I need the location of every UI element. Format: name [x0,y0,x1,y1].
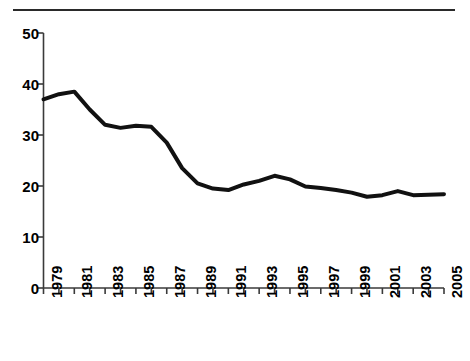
x-tick-label-1983: 1983 [111,266,126,298]
x-tick-label-1987: 1987 [173,266,188,298]
x-tick-label-2001: 2001 [388,266,403,298]
x-tick-label-1997: 1997 [327,266,342,298]
x-tick-label-1999: 1999 [358,266,373,298]
x-tick-label-2003: 2003 [419,266,434,298]
figure-root: 01020304050 1979198119831985198719891991… [0,0,470,361]
x-tick-label-1993: 1993 [265,266,280,298]
x-tick-label-1991: 1991 [234,266,249,298]
x-tick-label-2005: 2005 [450,266,465,298]
x-axis-tick-labels: 1979198119831985198719891991199319951997… [0,0,470,361]
x-tick-label-1995: 1995 [296,266,311,298]
x-tick-label-1979: 1979 [50,266,65,298]
x-tick-label-1989: 1989 [204,266,219,298]
x-tick-label-1985: 1985 [142,266,157,298]
x-tick-label-1981: 1981 [80,266,95,298]
